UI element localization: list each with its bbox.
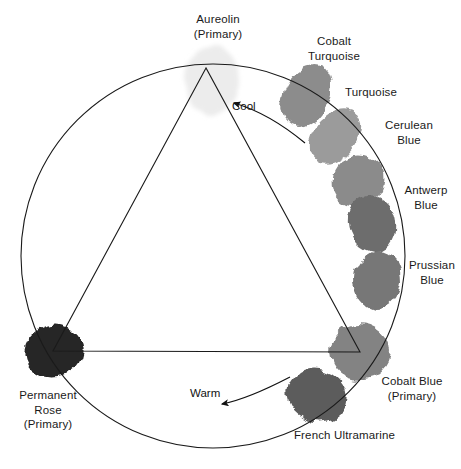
permanent-rose-label-line-0: Permanent [8,388,88,403]
antwerp-blue-label-line-1: Blue [397,198,455,213]
cobalt-blue-label-line-1: (Primary) [372,389,452,404]
turquoise-label: Turquoise [345,85,407,100]
cobalt-blue-label-line-0: Cobalt Blue [372,374,452,389]
aureolin-label-line-0: Aureolin [183,12,253,27]
cerulean-blue-label-line-1: Blue [378,133,440,148]
french-ultramarine-label: French Ultramarine [287,428,402,443]
permanent-rose-label: PermanentRose(Primary) [8,388,88,432]
cool-annotation-label: Cool [232,100,256,113]
swatch-layer [16,44,402,429]
turquoise-label-line-0: Turquoise [345,85,407,100]
permanent-rose-label-line-2: (Primary) [8,417,88,432]
prussian-blue-label-line-1: Blue [404,273,460,288]
warm-annotation-label: Warm [190,387,220,400]
prussian-blue-label-line-0: Prussian [404,258,460,273]
cobalt-turquoise-label: CobaltTurquoise [295,34,373,63]
paint-swatch-prussian-blue [354,250,402,310]
aureolin-label: Aureolin(Primary) [183,12,253,41]
cerulean-blue-label-line-0: Cerulean [378,118,440,133]
permanent-rose-label-line-1: Rose [8,403,88,418]
cobalt-turquoise-label-line-1: Turquoise [295,49,373,64]
french-ultramarine-label-line-0: French Ultramarine [287,428,402,443]
prussian-blue-label: PrussianBlue [404,258,460,287]
antwerp-blue-label-line-0: Antwerp [397,183,455,198]
warm-direction-arrow [222,377,290,404]
cobalt-blue-label: Cobalt Blue(Primary) [372,374,452,403]
aureolin-label-line-1: (Primary) [183,27,253,42]
cerulean-blue-label: CeruleanBlue [378,118,440,147]
cobalt-turquoise-label-line-0: Cobalt [295,34,373,49]
color-wheel-diagram: Aureolin(Primary)CobaltTurquoiseTurquois… [0,0,461,469]
antwerp-blue-label: AntwerpBlue [397,183,455,212]
